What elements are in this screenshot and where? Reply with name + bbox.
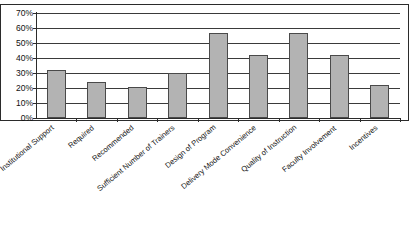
bar[interactable]	[87, 82, 106, 118]
plot-area	[36, 13, 400, 118]
x-axis-category-labels: Institutional SupportRequiredRecommended…	[0, 118, 411, 227]
y-axis-tick-label: 10%	[0, 99, 33, 108]
x-axis-label-text: Sufficient Number of Trainers	[96, 124, 176, 193]
y-axis-tick-label: 60%	[0, 24, 33, 33]
x-axis-label: Institutional Support	[0, 124, 55, 173]
y-axis-tick-mark	[33, 43, 36, 44]
x-axis-label: Required	[67, 124, 96, 150]
bar[interactable]	[370, 85, 389, 118]
bar-column[interactable]	[47, 13, 66, 118]
y-axis-tick-mark	[33, 58, 36, 59]
x-axis-label: Incentives	[348, 124, 379, 152]
y-axis-tick-mark	[33, 88, 36, 89]
x-axis-label-text: Institutional Support	[0, 124, 55, 173]
bar[interactable]	[128, 87, 147, 119]
y-axis-tick-label: 50%	[0, 39, 33, 48]
bar-column[interactable]	[330, 13, 349, 118]
y-axis-tick-label: 40%	[0, 54, 33, 63]
bar-column[interactable]	[87, 13, 106, 118]
x-axis-label-text: Required	[67, 124, 96, 150]
x-axis-label: Sufficient Number of Trainers	[96, 124, 176, 193]
y-axis-tick-mark	[33, 73, 36, 74]
y-axis-tick-mark	[33, 13, 36, 14]
bar-column[interactable]	[209, 13, 228, 118]
y-axis-tick-label: 30%	[0, 69, 33, 78]
y-axis-tick-label: 20%	[0, 84, 33, 93]
y-axis-tick-label: 70%	[0, 9, 33, 18]
bar-column[interactable]	[370, 13, 389, 118]
bar-column[interactable]	[128, 13, 147, 118]
bar[interactable]	[209, 33, 228, 119]
y-axis-line	[36, 12, 37, 119]
y-axis-tick-mark	[33, 28, 36, 29]
bar[interactable]	[168, 73, 187, 118]
bar[interactable]	[330, 55, 349, 118]
bar-chart: 70%60%50%40%30%20%10%0% Institutional Su…	[0, 0, 411, 227]
bar[interactable]	[289, 33, 308, 119]
bar[interactable]	[249, 55, 268, 118]
x-axis-label-text: Incentives	[348, 124, 379, 152]
x-axis-label-text: Delivery Mode Convenience	[180, 124, 258, 191]
bar-column[interactable]	[289, 13, 308, 118]
bar-column[interactable]	[249, 13, 268, 118]
y-axis-tick-mark	[33, 103, 36, 104]
x-axis-label: Delivery Mode Convenience	[180, 124, 258, 191]
bar-column[interactable]	[168, 13, 187, 118]
bar[interactable]	[47, 70, 66, 118]
